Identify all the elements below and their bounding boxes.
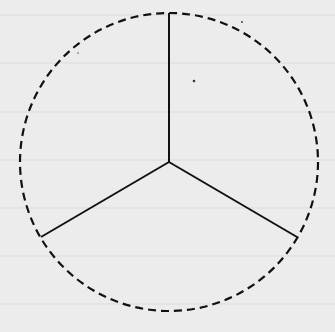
- spokes: [41, 13, 297, 237]
- spoke-lower-left: [41, 162, 169, 237]
- diagram-canvas: [0, 0, 335, 332]
- circle-diagram: [0, 0, 335, 332]
- spoke-lower-right: [169, 162, 297, 237]
- specks: [77, 21, 243, 82]
- ruled-lines: [0, 15, 335, 304]
